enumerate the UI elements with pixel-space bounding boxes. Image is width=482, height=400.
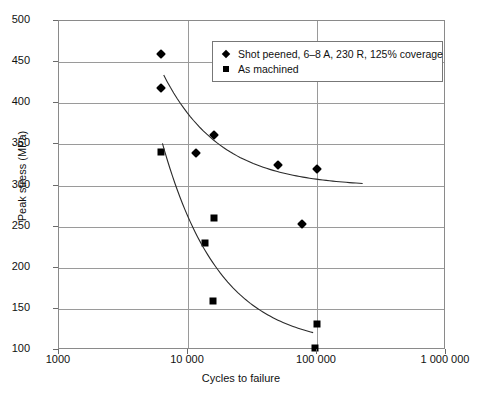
data-point-diamond xyxy=(156,49,166,59)
y-axis-tick-mark xyxy=(53,267,58,268)
legend-item-shot-peened: Shot peened, 6–8 A, 230 R, 125% coverage xyxy=(219,46,436,61)
x-axis-tick-mark xyxy=(187,349,188,354)
legend-label: Shot peened, 6–8 A, 230 R, 125% coverage xyxy=(238,48,443,60)
y-axis-tick-label: 450 xyxy=(0,55,30,66)
legend-label: As machined xyxy=(238,63,299,75)
data-point-diamond xyxy=(273,160,283,170)
y-axis-tick-mark xyxy=(53,226,58,227)
data-point-diamond xyxy=(312,164,322,174)
x-axis-tick-mark xyxy=(316,349,317,354)
gridline-horizontal xyxy=(59,268,444,269)
gridline-horizontal xyxy=(59,144,444,145)
y-axis-tick-label: 150 xyxy=(0,302,30,313)
y-axis-tick-mark xyxy=(53,308,58,309)
square-marker-icon xyxy=(219,66,233,72)
x-axis-tick-label: 1000 xyxy=(0,353,118,365)
y-axis-tick-mark xyxy=(53,143,58,144)
gridline-horizontal xyxy=(59,186,444,187)
y-axis-title: Peak stress (MPa) xyxy=(16,66,28,286)
x-axis-tick-mark xyxy=(445,349,446,354)
data-point-square xyxy=(158,148,165,155)
fatigue-scatter-chart: 100150200250300350400450500 100010 00010… xyxy=(0,0,482,400)
x-axis-tick-label: 100 000 xyxy=(256,353,376,365)
y-axis-tick-label: 500 xyxy=(0,14,30,25)
x-axis-tick-label: 1 000 000 xyxy=(385,353,482,365)
data-point-square xyxy=(209,297,216,304)
diamond-marker-icon xyxy=(219,51,233,57)
y-axis-tick-mark xyxy=(53,102,58,103)
legend-item-as-machined: As machined xyxy=(219,61,436,76)
gridline-horizontal xyxy=(59,227,444,228)
x-axis-tick-label: 10 000 xyxy=(127,353,247,365)
data-point-square xyxy=(211,214,218,221)
x-axis-title: Cycles to failure xyxy=(0,372,482,384)
x-axis-tick-mark xyxy=(58,349,59,354)
gridline-horizontal xyxy=(59,309,444,310)
data-point-diamond xyxy=(191,148,201,158)
gridline-horizontal xyxy=(59,103,444,104)
gridline-vertical xyxy=(188,21,189,348)
data-point-square xyxy=(314,320,321,327)
data-point-diamond xyxy=(156,83,166,93)
data-point-square xyxy=(201,240,208,247)
y-axis-tick-mark xyxy=(53,185,58,186)
y-axis-tick-mark xyxy=(53,61,58,62)
data-point-diamond xyxy=(209,130,219,140)
chart-legend: Shot peened, 6–8 A, 230 R, 125% coverage… xyxy=(212,41,443,82)
y-axis-tick-mark xyxy=(53,20,58,21)
